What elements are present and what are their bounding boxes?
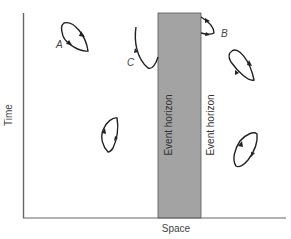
label-c: C (127, 57, 135, 68)
x-axis-label: Space (162, 223, 191, 234)
light-cone-loop-right-lower (234, 133, 257, 167)
worldline-c (134, 27, 158, 68)
light-cone-loop-left-lower (102, 118, 118, 152)
spacetime-diagram: Space Time Event horizon Event horizon A… (0, 0, 291, 239)
y-axis-label: Time (3, 104, 14, 126)
label-a: A (55, 39, 63, 50)
worldline-b (201, 17, 214, 36)
light-cone-loop-a (62, 23, 88, 51)
event-horizon-right-label: Event horizon (205, 94, 216, 155)
label-b: B (221, 28, 228, 39)
event-horizon-left-label: Event horizon (163, 94, 174, 155)
light-cone-loop-right-upper (229, 50, 254, 80)
